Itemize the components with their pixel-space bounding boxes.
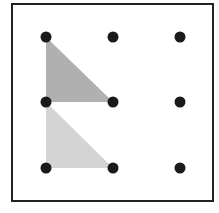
dot-grid-diagram: [0, 0, 219, 213]
upper-triangle: [46, 37, 113, 102]
grid-dot: [41, 163, 52, 174]
grid-dot: [175, 97, 186, 108]
triangles-group: [46, 37, 113, 168]
grid-dot: [175, 163, 186, 174]
grid-dot: [108, 97, 119, 108]
grid-dot: [108, 32, 119, 43]
grid-dot: [41, 32, 52, 43]
grid-dot: [108, 163, 119, 174]
grid-dot: [175, 32, 186, 43]
grid-dot: [41, 97, 52, 108]
lower-triangle: [46, 102, 113, 168]
